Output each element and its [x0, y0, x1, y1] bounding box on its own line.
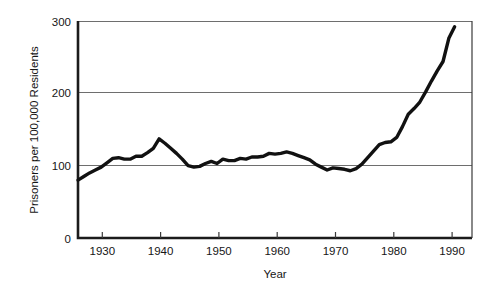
- prisoners-per-100000-line-chart: 300 200 100 0 1930 1940 1950 1960 1970 1…: [0, 0, 497, 292]
- x-tick-label-1930: 1930: [90, 245, 116, 257]
- x-tick-label-1960: 1960: [264, 245, 290, 257]
- y-tick-label-0: 0: [65, 233, 71, 245]
- x-axis-title: Year: [263, 268, 286, 280]
- chart-figure: 300 200 100 0 1930 1940 1950 1960 1970 1…: [0, 0, 497, 292]
- x-tick-label-1970: 1970: [323, 245, 349, 257]
- x-tick-label-1980: 1980: [381, 245, 407, 257]
- x-tick-label-1940: 1940: [148, 245, 174, 257]
- x-tick-labels: 1930 1940 1950 1960 1970 1980 1990: [90, 245, 465, 257]
- y-tick-labels: 300 200 100 0: [52, 16, 71, 245]
- y-tick-label-200: 200: [52, 87, 71, 99]
- y-tick-label-100: 100: [52, 160, 71, 172]
- y-axis-title: Prisoners per 100,000 Residents: [28, 46, 40, 214]
- x-tick-label-1950: 1950: [206, 245, 232, 257]
- x-tick-label-1990: 1990: [439, 245, 465, 257]
- y-tick-label-300: 300: [52, 16, 71, 28]
- plot-background: [78, 21, 472, 238]
